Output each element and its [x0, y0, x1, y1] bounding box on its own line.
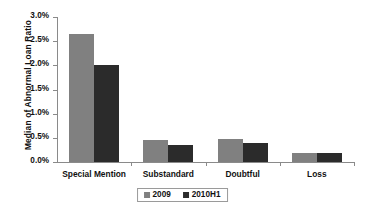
legend-swatch-icon-2009 — [144, 192, 150, 198]
bar-2009-special-mention — [69, 34, 94, 162]
y-axis-tick-label: 2.0% — [30, 59, 49, 68]
legend-item-2010h1: 2010H1 — [183, 191, 221, 199]
y-axis-line — [57, 17, 58, 163]
legend-item-2009: 2009 — [144, 191, 171, 199]
y-axis-tick-label: 0.5% — [30, 132, 49, 141]
legend-label-2009: 2009 — [153, 191, 171, 199]
plot-area: 0.0%0.5%1.0%1.5%2.0%2.5%3.0% Special Men… — [57, 17, 354, 162]
y-axis-tick-label: 2.5% — [30, 35, 49, 44]
x-axis-label-substandard: Substandard — [131, 169, 205, 179]
bar-2009-doubtful — [218, 139, 243, 162]
x-axis-label-special-mention: Special Mention — [57, 169, 131, 179]
y-axis-tick-label: 3.0% — [30, 11, 49, 20]
y-axis-tick-label: 0.0% — [30, 156, 49, 165]
legend-label-2010h1: 2010H1 — [192, 191, 221, 199]
bar-2010h1-substandard — [168, 145, 193, 162]
y-axis-tick: 0.0% — [53, 162, 57, 163]
y-axis-tick: 2.0% — [53, 65, 57, 66]
x-axis-label-doubtful: Doubtful — [206, 169, 280, 179]
bar-2010h1-loss — [317, 153, 342, 162]
x-axis-label-loss: Loss — [280, 169, 354, 179]
y-axis-tick: 3.0% — [53, 17, 57, 18]
legend-swatch-icon-2010h1 — [183, 192, 189, 198]
bar-2009-substandard — [143, 140, 168, 162]
bar-2009-loss — [292, 153, 317, 162]
x-axis-tick — [206, 162, 207, 166]
bar-2010h1-doubtful — [243, 143, 268, 162]
y-axis-tick: 1.5% — [53, 90, 57, 91]
x-axis-tick — [354, 162, 355, 166]
bar-chart: Median of Abnormal Loan Ratio 0.0%0.5%1.… — [0, 0, 365, 217]
y-axis-tick-label: 1.5% — [30, 84, 49, 93]
x-axis-tick — [131, 162, 132, 166]
x-axis-tick — [280, 162, 281, 166]
y-axis-tick-label: 1.0% — [30, 108, 49, 117]
bar-2010h1-special-mention — [94, 65, 119, 162]
y-axis-tick: 1.0% — [53, 114, 57, 115]
chart-legend: 2009 2010H1 — [137, 188, 229, 202]
y-axis-tick: 2.5% — [53, 41, 57, 42]
y-axis-tick: 0.5% — [53, 138, 57, 139]
